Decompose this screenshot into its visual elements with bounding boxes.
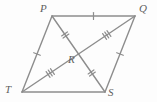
segment-pr [52, 16, 79, 54]
tick-marks-group [34, 13, 124, 78]
parallelogram-svg [0, 0, 157, 102]
vertex-label-t: T [5, 84, 11, 95]
geometry-figure: P Q S T R [0, 0, 157, 102]
vertex-label-s: S [108, 87, 114, 98]
segments-group [22, 16, 135, 92]
vertex-label-p: P [40, 3, 47, 14]
vertex-label-r: R [68, 54, 75, 65]
vertex-label-q: Q [139, 3, 147, 14]
segment-rs [79, 54, 106, 92]
